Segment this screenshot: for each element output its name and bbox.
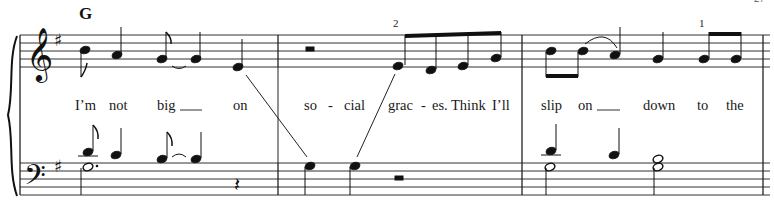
lyric-syllable: I’ll: [492, 97, 510, 114]
lyric-syllable: I’m: [75, 97, 96, 114]
sharp-icon: ♯: [54, 156, 62, 176]
fingering-number: 2: [393, 17, 399, 29]
lyric-syllable: grac: [388, 97, 413, 114]
lyric-syllable: down: [643, 97, 675, 114]
lyric-syllable: to: [697, 97, 708, 114]
lyric-syllable: -: [421, 97, 426, 114]
measure-2-bass: [304, 161, 403, 195]
lyric-syllable: not: [109, 97, 128, 114]
measure-3-bass: [541, 124, 664, 195]
lyric-syllable: es.: [432, 97, 448, 114]
quarter-rest-icon: 𝄽: [234, 172, 240, 196]
voice-lines: [246, 74, 395, 157]
treble-clef-icon: 𝄞: [26, 27, 53, 83]
sharp-icon: ♯: [54, 30, 62, 50]
lyric-syllable: the: [726, 97, 744, 114]
lyric-syllable: on: [578, 97, 593, 114]
lyric-syllable: Think: [451, 97, 486, 114]
fingering-number: 1: [699, 17, 705, 29]
lyric-syllable: big: [157, 97, 176, 114]
page-number: 27: [754, 0, 765, 4]
measure-2-treble: [306, 31, 502, 75]
lyric-syllable: slip: [541, 97, 562, 114]
bass-clef-icon: 𝄢: [24, 158, 46, 198]
lyric-syllable: cial: [344, 97, 365, 114]
lyric-syllable: on: [233, 97, 248, 114]
lyric-syllable: -: [328, 97, 333, 114]
chord-symbol: G: [79, 4, 92, 24]
lyric-syllable: so: [304, 97, 317, 114]
measure-1-bass: [78, 125, 202, 195]
brace-icon: [8, 36, 17, 196]
